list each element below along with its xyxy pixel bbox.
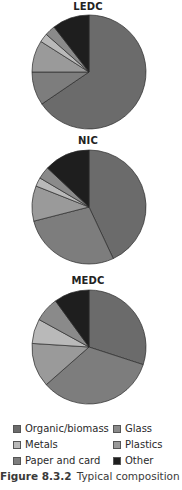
- legend-swatch-paper: [13, 457, 21, 465]
- figure-caption-text: Typical composition: [77, 470, 180, 482]
- pie-ledc-svg: [30, 13, 148, 131]
- figure-number: Figure 8.3.2: [0, 470, 72, 482]
- legend-item-other: Other: [113, 455, 153, 466]
- legend-swatch-other: [113, 457, 121, 465]
- legend-label-other: Other: [125, 455, 153, 466]
- legend-label-metals: Metals: [25, 439, 58, 450]
- figure-caption: Figure 8.3.2Typical composition: [0, 470, 180, 482]
- legend-swatch-organic: [13, 425, 21, 433]
- pie-nic-svg: [30, 148, 148, 266]
- pie-title-nic: NIC: [0, 135, 176, 146]
- legend-swatch-metals: [13, 441, 21, 449]
- legend-item-glass: Glass: [113, 423, 152, 434]
- pie-medc-svg: [30, 288, 148, 406]
- legend-label-paper: Paper and card: [25, 455, 100, 466]
- legend-swatch-plastics: [113, 441, 121, 449]
- legend-swatch-glass: [113, 425, 121, 433]
- legend-item-metals: Metals: [13, 439, 58, 450]
- legend-item-plastics: Plastics: [113, 439, 163, 450]
- pie-title-medc: MEDC: [0, 275, 176, 286]
- legend-item-organic: Organic/biomass: [13, 423, 109, 434]
- pie-title-ledc: LEDC: [0, 1, 176, 12]
- legend-label-organic: Organic/biomass: [25, 423, 109, 434]
- legend-label-glass: Glass: [125, 423, 152, 434]
- legend-label-plastics: Plastics: [125, 439, 163, 450]
- legend-item-paper: Paper and card: [13, 455, 100, 466]
